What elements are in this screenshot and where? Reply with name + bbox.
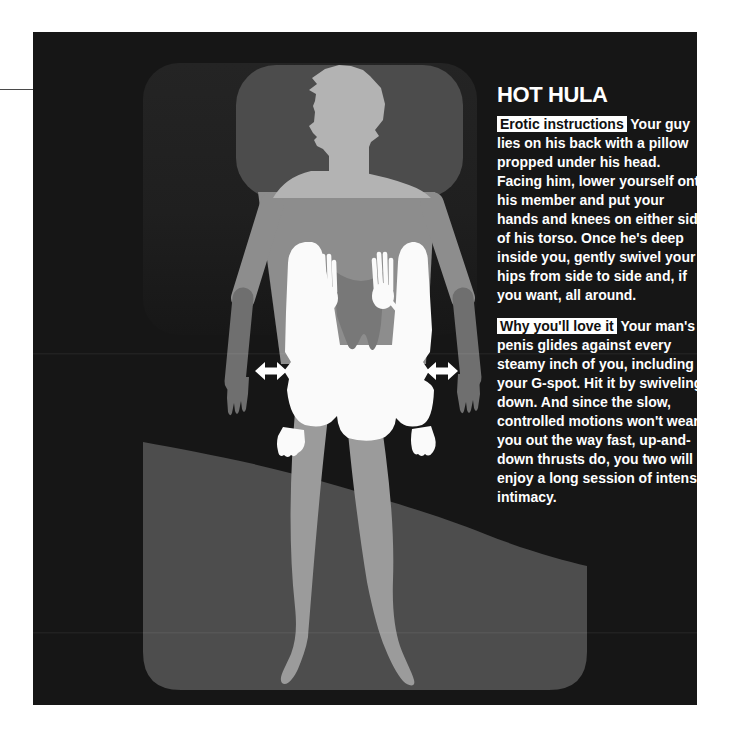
man-left-hand	[227, 377, 249, 415]
magazine-page: { "article": { "title": "HOT HULA", "sec…	[0, 0, 734, 737]
why-youll-love-it-paragraph: Why you'll love it Your man's penis glid…	[497, 317, 709, 507]
left-right-arrow	[426, 362, 458, 380]
section-label: Erotic instructions	[497, 116, 627, 132]
section-label: Why you'll love it	[497, 318, 617, 334]
section-text: Your guy lies on his back with a pillow …	[497, 116, 708, 303]
man-left-forearm	[235, 298, 243, 382]
crop-mark	[0, 89, 33, 90]
woman-right-foot	[411, 426, 436, 456]
left-right-arrow	[255, 362, 287, 380]
man-right-forearm	[463, 298, 471, 378]
section-text: Your man's penis glides against every st…	[497, 318, 705, 505]
man-right-hand	[457, 374, 480, 413]
fold-line	[33, 632, 697, 634]
page-title: HOT HULA	[497, 82, 709, 108]
instruction-column: HOT HULA Erotic instructions Your guy li…	[497, 82, 709, 519]
illustration-board: HOT HULA Erotic instructions Your guy li…	[33, 32, 697, 705]
erotic-instructions-paragraph: Erotic instructions Your guy lies on his…	[497, 115, 709, 305]
